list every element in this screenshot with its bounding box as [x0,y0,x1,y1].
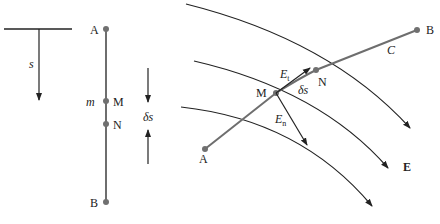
En-subscript: n [282,119,286,128]
Et-label: Et [280,68,290,83]
right-delta-s-label: δs [298,84,308,96]
point-N-dot [103,121,109,127]
delta-s-label: δs [143,111,153,123]
path-C [205,30,417,149]
right-point-B-label: B [426,24,434,36]
point-A-label: A [90,24,99,36]
right-point-B-dot [414,27,420,33]
point-M-label: M [113,96,124,108]
right-point-N-dot [313,67,319,73]
right-point-N-label: N [318,76,327,88]
field-E-label: E [403,161,411,173]
right-point-A-label: A [199,153,208,165]
En-label: En [275,113,286,128]
diagram-canvas [0,0,440,224]
point-M-dot [103,98,109,104]
s-label: s [29,58,34,70]
point-B-dot [103,199,109,205]
right-point-M-label: M [256,87,267,99]
point-B-label: B [90,197,98,209]
Et-subscript: t [287,74,289,83]
field-line-1 [186,4,410,128]
mass-m-label: m [86,96,95,108]
point-A-dot [103,26,109,32]
curve-C-label: C [387,44,395,56]
point-N-label: N [113,119,122,131]
